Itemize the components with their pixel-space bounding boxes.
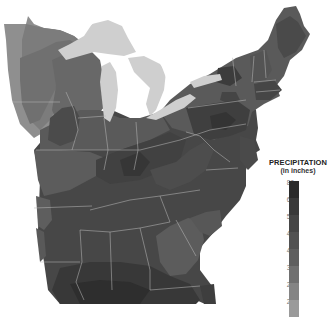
legend-body: 80 64 56 48 40 32 28 24 [262, 179, 334, 319]
legend-swatch [289, 300, 299, 317]
lake-huron [128, 56, 166, 116]
legend-color-bar [289, 181, 299, 321]
legend-swatch [289, 283, 299, 300]
legend-title: PRECIPITATION [262, 158, 334, 167]
legend-swatch [289, 266, 299, 283]
legend-swatch [289, 181, 299, 198]
legend-swatch [289, 198, 299, 215]
legend-swatch [289, 215, 299, 232]
legend-swatch [289, 232, 299, 249]
legend-subtitle: (in inches) [262, 167, 334, 175]
legend-swatch [289, 249, 299, 266]
legend: PRECIPITATION (in inches) 80 64 56 48 40… [262, 158, 334, 319]
